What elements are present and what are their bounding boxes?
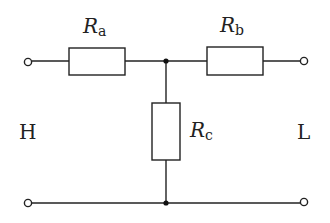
resistor-ra xyxy=(69,48,125,75)
terminal-top-left xyxy=(24,58,31,65)
terminal-bottom-left xyxy=(24,199,31,206)
resistor-rc xyxy=(152,103,180,160)
label-ra: Ra xyxy=(82,14,106,39)
terminal-top-right xyxy=(300,57,307,64)
t-network-circuit: Ra Rb Rc H L xyxy=(0,0,330,223)
resistor-rb xyxy=(207,47,263,75)
label-rb: Rb xyxy=(219,13,244,38)
label-rc: Rc xyxy=(189,118,213,143)
junction-top xyxy=(163,58,168,63)
port-label-h: H xyxy=(19,120,36,144)
port-label-l: L xyxy=(297,120,310,144)
junction-bottom xyxy=(163,200,168,205)
terminal-bottom-right xyxy=(300,198,307,205)
